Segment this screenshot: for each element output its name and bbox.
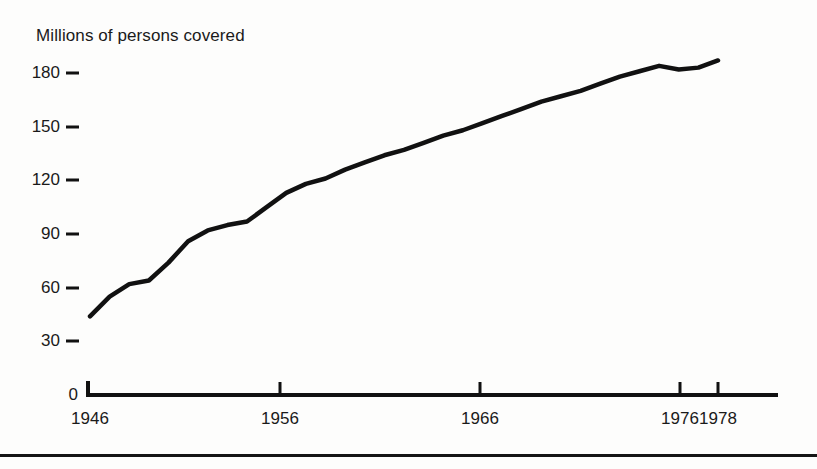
x-axis: [88, 381, 778, 395]
chart-figure: Millions of persons covered 030609012015…: [0, 0, 817, 469]
y-axis-tick-mark: [66, 125, 79, 128]
y-axis-tick-label: 30: [6, 331, 60, 351]
x-axis-line: [88, 381, 778, 395]
y-axis-tick-label: 150: [6, 117, 60, 137]
x-axis-tick-label: 1946: [71, 409, 109, 429]
y-axis-tick-label: 60: [6, 278, 60, 298]
x-axis-tick-label: 1956: [261, 409, 299, 429]
y-axis-tick-mark: [66, 340, 79, 343]
y-axis-tick-mark: [66, 286, 79, 289]
x-axis-tick-label: 1966: [461, 409, 499, 429]
y-axis-tick-label: 180: [6, 63, 60, 83]
y-axis-tick-label-zero: 0: [69, 385, 78, 405]
x-axis-tick-label: 1976: [661, 409, 699, 429]
y-axis-tick-mark: [66, 179, 79, 182]
y-axis-tick-label: 90: [6, 224, 60, 244]
data-series-line: [90, 60, 718, 316]
y-axis-tick-mark: [66, 72, 79, 75]
y-axis-tick-label: 120: [6, 170, 60, 190]
line-chart-plot: [0, 0, 817, 469]
x-axis-tick-label: 1978: [699, 409, 737, 429]
y-axis-tick-mark: [66, 233, 79, 236]
bottom-divider-rule: [0, 454, 817, 457]
